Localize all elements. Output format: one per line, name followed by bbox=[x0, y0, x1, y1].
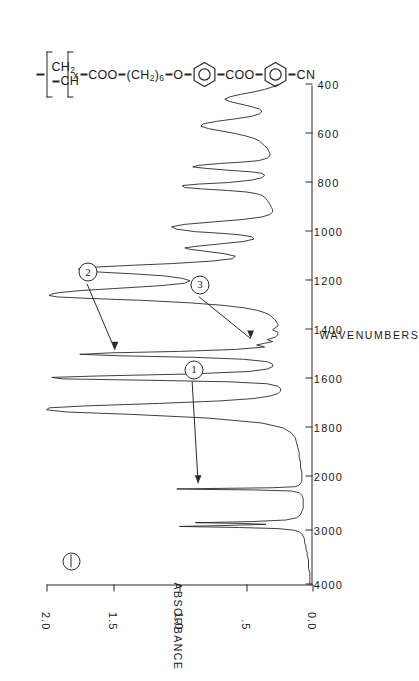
x-axis-title: WAVENUMBERS bbox=[319, 328, 409, 340]
x-axis-tick-label: 1200 bbox=[312, 274, 344, 286]
x-axis-tick bbox=[305, 426, 312, 427]
spectrum-trace bbox=[46, 84, 309, 584]
x-axis-tick bbox=[305, 279, 312, 280]
ch2-text: CH bbox=[51, 59, 70, 73]
x-axis-tick bbox=[305, 583, 312, 584]
x-axis-tick-label: 800 bbox=[312, 176, 344, 188]
backbone-ch2: CH2 bbox=[51, 60, 75, 74]
annotation-badge-3: 3 bbox=[190, 275, 209, 294]
spacer-count: 6 bbox=[159, 72, 164, 82]
spacer-ch: CH bbox=[131, 67, 150, 81]
annotation-callout-1: 1 bbox=[184, 360, 203, 379]
bond-dash-icon bbox=[80, 73, 87, 74]
spacer-group: (CH2)6 bbox=[126, 67, 164, 82]
bond-dash-icon bbox=[217, 73, 224, 74]
ether-oxygen-label: O bbox=[173, 67, 183, 81]
spectrum-trace-svg bbox=[46, 84, 312, 584]
y-axis-tick bbox=[312, 584, 313, 591]
annotation-label-1: 1 bbox=[190, 364, 196, 375]
annotation-label-2: 2 bbox=[85, 266, 91, 277]
x-axis-tick bbox=[305, 475, 312, 476]
annotation-callout-3: 3 bbox=[190, 275, 209, 294]
bond-dash-icon bbox=[255, 73, 262, 74]
y-axis-tick-label: 0.0 bbox=[305, 596, 317, 630]
spacer-subscript: 2 bbox=[149, 72, 154, 82]
x-axis-tick-label: 1800 bbox=[312, 421, 344, 433]
x-axis-tick-label: 2000 bbox=[312, 471, 344, 483]
x-axis-tick bbox=[305, 328, 312, 329]
x-axis-tick-label: 400 bbox=[312, 78, 344, 90]
annotation-badge-2: 2 bbox=[78, 262, 97, 281]
ester-coo-label: COO bbox=[88, 67, 117, 81]
x-axis-tick bbox=[305, 230, 312, 231]
x-axis-tick-label: 600 bbox=[312, 127, 344, 139]
benzene-ring-icon bbox=[263, 61, 287, 87]
linker-coo-label: COO bbox=[225, 67, 254, 81]
bond-dash-icon bbox=[184, 73, 191, 74]
ch2-subscript: 2 bbox=[70, 64, 75, 74]
y-axis-tick bbox=[46, 584, 47, 591]
y-axis-tick bbox=[246, 584, 247, 591]
benzene-ring-icon bbox=[192, 61, 216, 87]
y-axis-tick-label: 1.5 bbox=[106, 596, 118, 630]
bond-dash-icon bbox=[288, 73, 295, 74]
x-axis-tick-label: 3000 bbox=[312, 524, 344, 536]
x-axis-tick bbox=[305, 83, 312, 84]
annotation-badge-1: 1 bbox=[184, 360, 203, 379]
y-axis-tick bbox=[113, 584, 114, 591]
x-axis-tick bbox=[305, 181, 312, 182]
bond-dash-icon bbox=[165, 73, 172, 74]
x-axis-tick bbox=[305, 377, 312, 378]
bond-dash-icon bbox=[118, 73, 125, 74]
y-axis-tick-label: .5 bbox=[239, 596, 251, 630]
x-axis-tick-label: 4000 bbox=[312, 578, 344, 590]
annotation-label-3: 3 bbox=[197, 279, 203, 290]
y-axis-tick-label: 2.0 bbox=[39, 596, 51, 630]
x-axis-tick bbox=[305, 529, 312, 530]
annotation-callout-2: 2 bbox=[78, 262, 97, 281]
y-axis-title: ABSORBANCE bbox=[171, 582, 183, 662]
bond-dash-icon bbox=[52, 80, 59, 81]
bracket-left-bond bbox=[36, 73, 44, 74]
x-axis-tick-label: 1600 bbox=[312, 372, 344, 384]
x-axis-tick bbox=[305, 132, 312, 133]
circle-with-bar-icon bbox=[62, 552, 80, 570]
spectrum-plot-area: 1 2 3 4006008001000120014001600180020003… bbox=[46, 85, 312, 585]
x-axis-tick-label: 1000 bbox=[312, 225, 344, 237]
